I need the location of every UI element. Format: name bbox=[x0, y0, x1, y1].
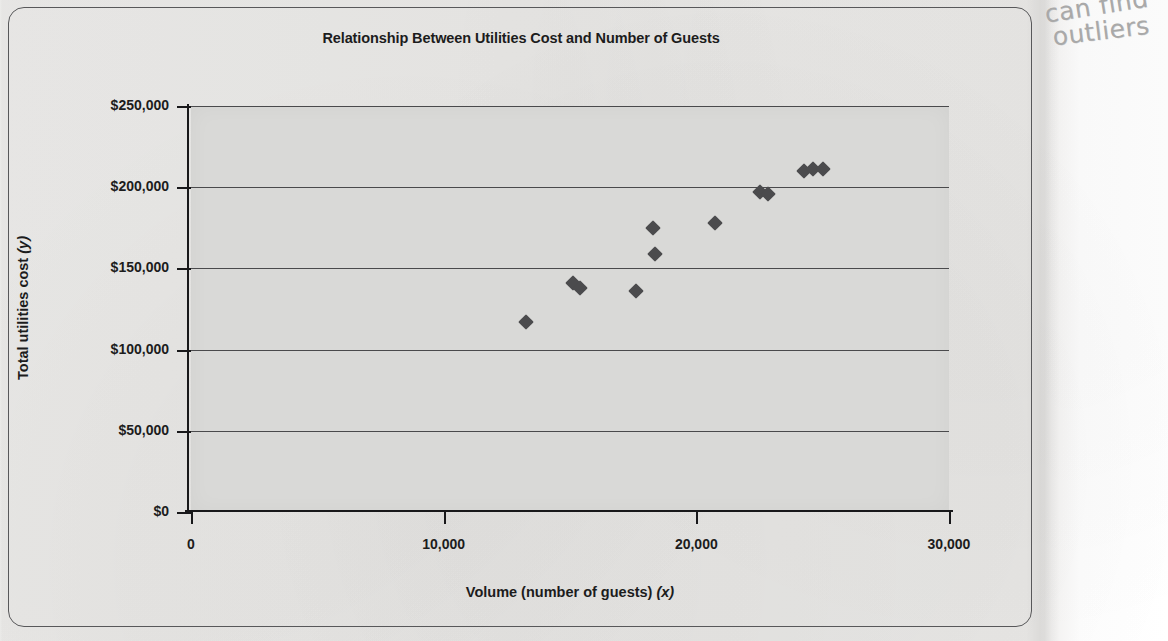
y-axis-tick bbox=[177, 106, 191, 108]
x-axis-title-text: Volume (number of guests) bbox=[466, 584, 653, 600]
x-axis-tick-label: 30,000 bbox=[889, 536, 1009, 552]
x-axis-title: Volume (number of guests) (x) bbox=[191, 584, 949, 600]
y-axis-title-text: Total utilities cost bbox=[15, 258, 31, 380]
data-point-marker bbox=[647, 246, 663, 262]
data-point-marker bbox=[646, 220, 662, 236]
x-axis-tick-label: 10,000 bbox=[384, 536, 504, 552]
y-axis-tick-label: $50,000 bbox=[49, 422, 169, 438]
y-axis-tick bbox=[177, 268, 191, 270]
chart-figure-frame: Relationship Between Utilities Cost and … bbox=[8, 7, 1032, 627]
gridline bbox=[191, 431, 949, 432]
gridline bbox=[191, 106, 949, 107]
x-axis-tick-label: 20,000 bbox=[636, 536, 756, 552]
y-axis-tick bbox=[177, 431, 191, 433]
data-point-marker bbox=[628, 283, 644, 299]
x-axis-tick bbox=[949, 510, 951, 524]
x-axis-line bbox=[185, 510, 953, 512]
data-point-marker bbox=[815, 162, 831, 178]
y-axis-line bbox=[187, 104, 189, 514]
gridline bbox=[191, 268, 949, 269]
y-axis-tick-label: $0 bbox=[49, 503, 169, 519]
data-point-marker bbox=[518, 314, 534, 330]
y-axis-title: Total utilities cost (y) bbox=[15, 158, 31, 458]
y-axis-tick-label: $150,000 bbox=[49, 259, 169, 275]
x-axis-tick-label: 0 bbox=[131, 536, 251, 552]
x-axis-tick bbox=[444, 510, 446, 524]
gridline bbox=[191, 350, 949, 351]
y-axis-tick-label: $250,000 bbox=[49, 97, 169, 113]
y-axis-tick-label: $100,000 bbox=[49, 341, 169, 357]
y-axis-tick-label: $200,000 bbox=[49, 178, 169, 194]
scatter-plot-area bbox=[191, 106, 949, 512]
y-axis-tick bbox=[177, 512, 191, 514]
x-axis-tick bbox=[191, 510, 193, 524]
y-axis-tick bbox=[177, 350, 191, 352]
data-point-marker bbox=[708, 215, 724, 231]
y-axis-tick bbox=[177, 187, 191, 189]
x-axis-tick bbox=[696, 510, 698, 524]
chart-title: Relationship Between Utilities Cost and … bbox=[9, 30, 1033, 46]
gridline bbox=[191, 187, 949, 188]
y-axis-variable-label: (y) bbox=[15, 236, 31, 254]
x-axis-variable-label: (x) bbox=[656, 584, 674, 600]
